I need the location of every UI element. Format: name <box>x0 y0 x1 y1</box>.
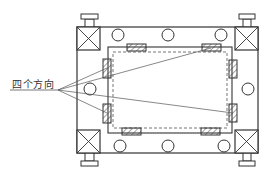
foot-post-top-right <box>243 19 251 27</box>
inner-frame <box>108 47 232 133</box>
leader-line <box>58 90 233 113</box>
leader-line <box>58 48 211 90</box>
inner-frame-rect <box>108 47 232 133</box>
foot-post-top-left <box>85 19 94 27</box>
hole-circle-icon <box>162 29 174 41</box>
hole-circle-icon <box>242 83 254 95</box>
foot-post-bottom-right <box>243 153 251 161</box>
foot-cap-bottom-right <box>239 161 255 166</box>
foot-cap-top-right <box>239 14 255 19</box>
hole-circle-icon <box>114 140 126 152</box>
foot-cap-bottom-left <box>81 161 98 166</box>
outer-frame <box>77 27 258 153</box>
outer-frame-rect <box>77 27 258 153</box>
foot-post-bottom-left <box>85 153 94 161</box>
hatched-pad-bottom-right <box>201 128 220 135</box>
hole-circle-icon <box>215 29 227 41</box>
hatched-pad-top-left <box>127 44 146 51</box>
hatched-pad-bottom-left <box>122 128 141 135</box>
hole-circle-icon <box>162 140 174 152</box>
hatched-pad-left-lower <box>103 104 111 123</box>
hatched-pad-left-upper <box>103 59 111 78</box>
hole-circle-icon <box>218 140 230 152</box>
leader-line <box>58 68 107 90</box>
corner-cross-boxes <box>77 27 258 153</box>
direction-label: 四个方向 <box>12 76 54 91</box>
hole-circle-icon <box>84 83 96 95</box>
hole-circle-icon <box>112 29 124 41</box>
hatched-pad-right-upper <box>229 60 237 78</box>
dashed-workpiece-outline <box>113 52 227 128</box>
dashed-frame-rect <box>113 52 227 128</box>
hatched-support-pads <box>103 44 237 135</box>
foot-cap-top-left <box>81 14 98 19</box>
